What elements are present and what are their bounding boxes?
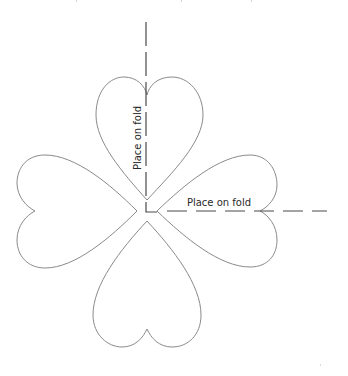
fold-corner-line: [146, 202, 157, 212]
edge-specks: [76, 0, 321, 366]
petal-bottom: [93, 221, 201, 347]
petal-left: [17, 155, 137, 268]
petal-top: [96, 77, 203, 200]
horizontal-fold-label: Place on fold: [187, 197, 251, 208]
vertical-fold-label: Place on fold: [132, 106, 143, 170]
clover-template-diagram: Place on fold Place on fold: [0, 0, 348, 376]
